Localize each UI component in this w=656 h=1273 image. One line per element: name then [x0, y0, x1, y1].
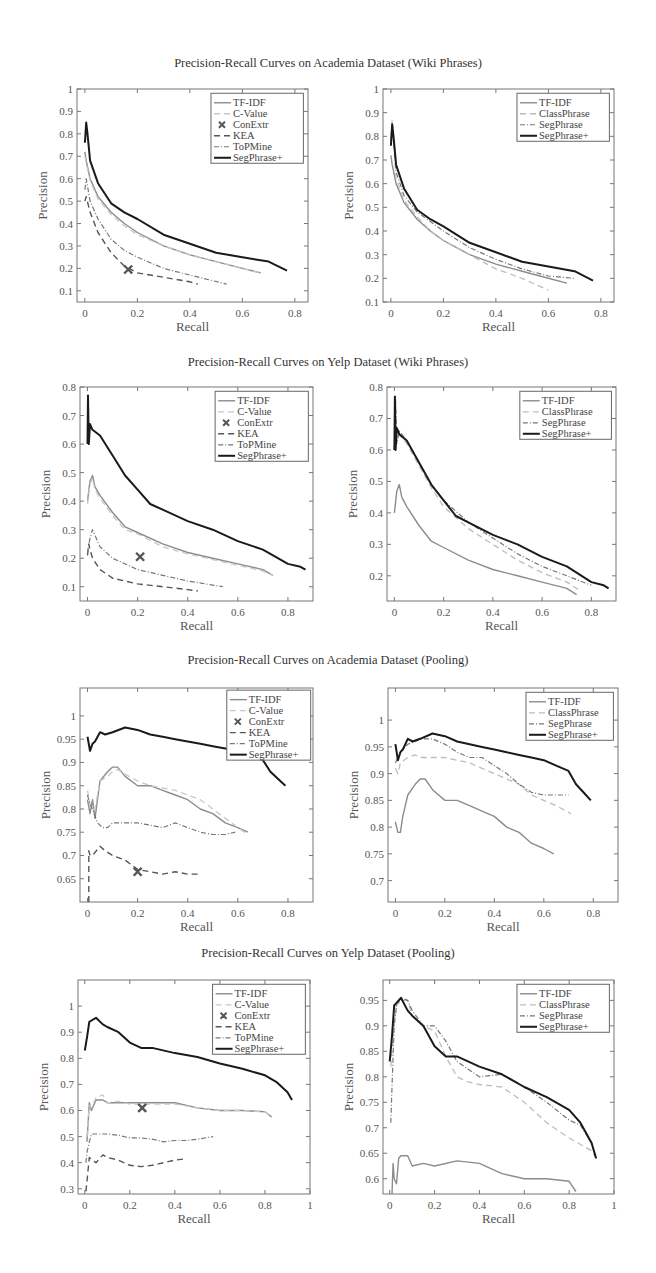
section-title-1: Precision-Recall Curves on Yelp Dataset … — [0, 355, 656, 370]
series-c-value — [88, 478, 273, 575]
y-tick-label: 0.6 — [60, 1104, 74, 1116]
x-tick-label: 0.6 — [517, 1199, 531, 1211]
x-tick-label: 0 — [82, 1199, 88, 1211]
y-tick-label: 0.9 — [59, 105, 73, 117]
x-tick-label: 0.4 — [486, 606, 500, 618]
y-tick-label: 0.2 — [369, 570, 383, 582]
y-tick-label: 0.85 — [360, 1045, 380, 1057]
x-tick-label: 0.8 — [281, 907, 295, 919]
x-tick-label: 0.6 — [231, 907, 245, 919]
x-axis-label: Recall — [176, 319, 210, 334]
pr-chart-7: 00.20.40.60.810.60.650.70.750.80.850.90.… — [383, 980, 614, 1194]
y-tick-label: 0.9 — [365, 1020, 379, 1032]
y-axis-label: Precision — [35, 171, 50, 220]
x-axis-label: Recall — [180, 618, 214, 633]
legend: TF-IDFC-ValueConExtrKEAToPMineSegPhrase+ — [211, 93, 303, 163]
x-tick-label: 0.8 — [594, 307, 608, 319]
legend-label: TF-IDF — [548, 696, 581, 707]
y-tick-label: 0.6 — [59, 173, 73, 185]
pr-chart-2: 00.20.40.60.80.10.20.30.40.50.60.70.8Rec… — [80, 387, 313, 601]
y-tick-label: 0.85 — [57, 780, 77, 792]
pr-chart-6: 00.20.40.60.810.30.40.50.60.70.80.91Reca… — [78, 980, 310, 1194]
y-tick-label: 1 — [379, 714, 385, 726]
legend-label: ToPMine — [249, 738, 288, 749]
y-tick-label: 0.75 — [365, 848, 385, 860]
y-tick-label: 0.4 — [369, 507, 383, 519]
conextr-marker — [136, 553, 144, 561]
legend-label: ConExtr — [233, 119, 269, 130]
y-tick-label: 1 — [374, 83, 380, 95]
x-tick-label: 0.8 — [562, 1199, 576, 1211]
legend-label: TF-IDF — [249, 694, 282, 705]
y-tick-label: 0.8 — [59, 128, 73, 140]
legend-label: SegPhrase+ — [548, 729, 598, 740]
series-tf-idf — [88, 767, 248, 832]
y-tick-label: 0.3 — [60, 1183, 74, 1195]
legend-label: ConExtr — [249, 716, 285, 727]
y-tick-label: 0.6 — [365, 178, 379, 190]
y-tick-label: 0.9 — [370, 768, 384, 780]
legend-label: SegPhrase — [539, 119, 583, 130]
legend-label: C-Value — [249, 705, 284, 716]
section-title-3: Precision-Recall Curves on Yelp Dataset … — [0, 946, 656, 961]
y-tick-label: 0.8 — [62, 803, 76, 815]
series-c-value — [87, 1095, 272, 1137]
y-tick-label: 0.95 — [360, 994, 380, 1006]
series-c-value — [88, 769, 248, 834]
y-tick-label: 0.7 — [370, 875, 384, 887]
legend-label: ConExtr — [235, 1010, 271, 1021]
series-topmine — [88, 530, 223, 587]
legend: TF-IDFC-ValueConExtrKEAToPMineSegPhrase+ — [213, 984, 306, 1054]
legend: TF-IDFClassPhraseSegPhraseSegPhrase+ — [517, 984, 609, 1032]
legend-label: ToPMine — [235, 1032, 274, 1043]
pr-chart-1: 00.20.40.60.80.10.20.30.40.50.60.70.80.9… — [383, 89, 614, 302]
legend-label: KEA — [249, 727, 271, 738]
legend-label: TF-IDF — [237, 395, 270, 406]
legend-label: KEA — [237, 428, 259, 439]
pr-chart-5: 00.20.40.60.80.70.750.80.850.90.951Recal… — [388, 688, 618, 902]
y-tick-label: 1 — [69, 1000, 75, 1012]
y-tick-label: 0.65 — [57, 873, 77, 885]
y-tick-label: 0.5 — [365, 201, 379, 213]
legend-label: SegPhrase+ — [235, 1043, 285, 1054]
y-tick-label: 0.3 — [369, 538, 383, 550]
legend-label: TF-IDF — [539, 988, 572, 999]
x-tick-label: 0.4 — [473, 1199, 487, 1211]
x-tick-label: 0.8 — [586, 907, 600, 919]
legend-label: TF-IDF — [542, 395, 575, 406]
y-tick-label: 0.9 — [365, 107, 379, 119]
y-tick-label: 0.3 — [62, 524, 76, 536]
section-title-2: Precision-Recall Curves on Academia Data… — [0, 653, 656, 668]
legend-label: KEA — [235, 1021, 257, 1032]
legend-label: SegPhrase+ — [249, 749, 299, 760]
legend-label: SegPhrase — [542, 417, 586, 428]
y-tick-label: 0.9 — [62, 756, 76, 768]
legend-label: TF-IDF — [539, 97, 572, 108]
y-tick-label: 0.2 — [365, 272, 379, 284]
x-axis-label: Recall — [486, 919, 520, 934]
x-tick-label: 0.4 — [168, 1199, 182, 1211]
legend-label: ConExtr — [237, 417, 273, 428]
legend-label: C-Value — [235, 999, 270, 1010]
legend-label: ToPMine — [233, 141, 272, 152]
series-tf-idf — [392, 1156, 576, 1194]
legend-label: TF-IDF — [235, 988, 268, 999]
y-tick-label: 0.85 — [365, 794, 385, 806]
x-tick-label: 0 — [392, 606, 398, 618]
legend: TF-IDFClassPhraseSegPhraseSegPhrase+ — [526, 692, 613, 740]
y-tick-label: 0.5 — [59, 195, 73, 207]
x-tick-label: 0.6 — [535, 606, 549, 618]
series-segphrase- — [395, 734, 590, 801]
legend-label: SegPhrase — [548, 718, 592, 729]
pr-chart-0: 00.20.40.60.80.10.20.30.40.50.60.70.80.9… — [77, 89, 308, 302]
legend-label: C-Value — [237, 406, 272, 417]
y-tick-label: 0.5 — [62, 467, 76, 479]
legend-label: SegPhrase+ — [237, 450, 287, 461]
x-tick-label: 0.6 — [542, 307, 556, 319]
series-segphrase — [391, 122, 575, 278]
series-tf-idf — [395, 779, 553, 854]
series-kea — [89, 846, 198, 902]
legend-label: SegPhrase — [539, 1010, 583, 1021]
y-tick-label: 0.1 — [59, 285, 73, 297]
legend-label: ClassPhrase — [539, 108, 590, 119]
